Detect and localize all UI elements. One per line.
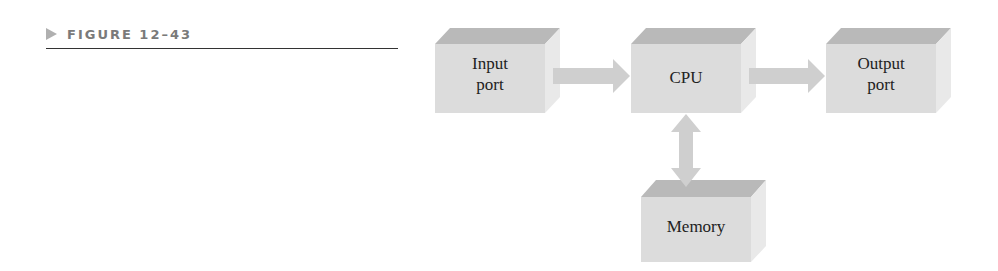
arrow-input-to-cpu [553, 59, 630, 93]
output-port-label-line2: port [867, 74, 894, 95]
block-diagram [0, 0, 998, 271]
arrow-cpu-memory-bidirectional [671, 114, 701, 187]
output-port-label: Output port [826, 44, 936, 104]
input-port-label: Input port [435, 44, 545, 104]
input-port-label-line1: Input [472, 53, 508, 74]
memory-label: Memory [641, 197, 751, 255]
cpu-label: CPU [631, 44, 741, 110]
arrow-cpu-to-output [749, 59, 825, 93]
output-port-label-line1: Output [857, 53, 904, 74]
input-port-label-line2: port [476, 74, 503, 95]
memory-label-text: Memory [667, 216, 726, 237]
cpu-label-text: CPU [669, 67, 702, 88]
